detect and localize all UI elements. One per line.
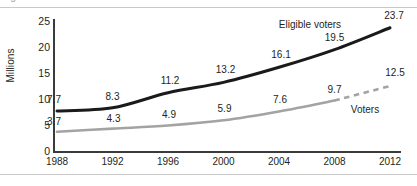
line-chart-plot: 0510152025 Millions 19881992199620002004… — [0, 0, 417, 186]
series-annotation-voters: Voters — [351, 104, 379, 115]
data-label-eligible-1996: 11.2 — [161, 74, 180, 85]
x-axis-tick-2008: 2008 — [313, 156, 357, 167]
x-axis-tick-1988: 1988 — [35, 156, 79, 167]
data-label-eligible-2004: 16.1 — [271, 49, 290, 60]
x-axis-tick-2004: 2004 — [257, 156, 301, 167]
data-label-voters-2008: 9.7 — [328, 83, 342, 94]
data-label-eligible-1988: 7.7 — [47, 93, 61, 104]
line-voters-actual — [57, 101, 335, 132]
data-label-voters-2012: 12.5 — [385, 67, 404, 78]
data-label-eligible-1992: 8.3 — [106, 90, 120, 101]
data-label-voters-2000: 5.9 — [218, 103, 232, 114]
x-axis-tick-2000: 2000 — [202, 156, 246, 167]
x-axis-tick-2012: 2012 — [368, 156, 412, 167]
data-label-voters-1992: 4.3 — [107, 112, 121, 123]
data-label-eligible-2008: 19.5 — [325, 31, 344, 42]
series-annotation-eligible-voters: Eligible voters — [279, 19, 341, 30]
data-label-eligible-2000: 13.2 — [216, 64, 235, 75]
data-label-voters-1988: 3.7 — [47, 115, 61, 126]
data-label-voters-2004: 7.6 — [273, 94, 287, 105]
line-voters-projected — [335, 86, 391, 101]
x-axis-tick-1996: 1996 — [146, 156, 190, 167]
data-label-eligible-2012: 23.7 — [384, 9, 403, 20]
data-label-voters-1996: 4.9 — [162, 108, 176, 119]
x-axis-tick-1992: 1992 — [91, 156, 135, 167]
